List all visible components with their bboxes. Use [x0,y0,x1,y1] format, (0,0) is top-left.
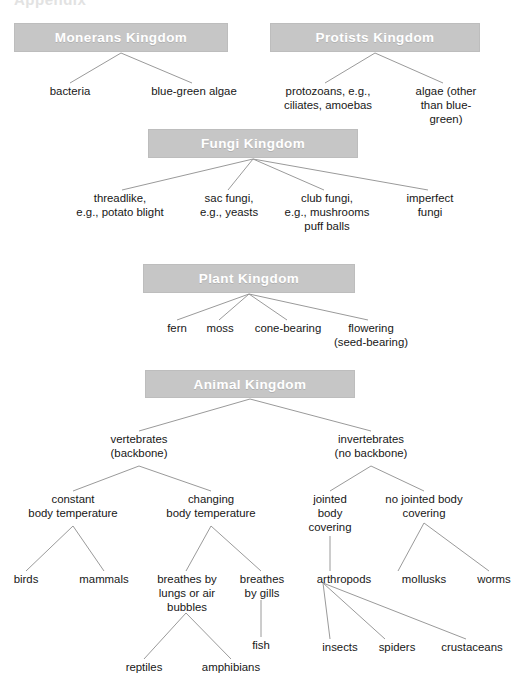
node-jointed-body-covering: jointed body covering [308,492,351,534]
node-worms: worms [477,572,511,586]
kingdom-bar-plant: Plant Kingdom [143,264,355,293]
node-fern: fern [167,321,187,335]
kingdom-bar-fungi: Fungi Kingdom [148,129,358,158]
classification-diagram: Appendix [0,0,529,687]
kingdom-bar-animal: Animal Kingdom [145,370,355,398]
kingdom-bar-monerans: Monerans Kingdom [14,23,228,52]
kingdom-bar-protists: Protists Kingdom [270,23,480,52]
node-mollusks: mollusks [402,572,446,586]
node-flowering: flowering (seed-bearing) [334,321,408,349]
node-other-algae: algae (other than blue-green) [405,84,488,126]
node-breathes-by-lungs: breathes by lungs or air bubbles [157,572,217,614]
node-club-fungi: club fungi, e.g., mushrooms puff balls [285,191,370,233]
node-spiders: spiders [379,640,416,654]
node-sac-fungi: sac fungi, e.g., yeasts [200,191,258,219]
node-changing-body-temperature: changing body temperature [166,492,255,520]
node-moss: moss [206,321,233,335]
cropped-page-heading: Appendix [14,0,86,8]
node-protozoans: protozoans, e.g., ciliates, amoebas [284,84,372,112]
node-cone-bearing: cone-bearing [255,321,322,335]
node-mammals: mammals [79,572,128,586]
node-vertebrates: vertebrates (backbone) [111,432,168,460]
node-invertebrates: invertebrates (no backbone) [335,432,408,460]
node-insects: insects [322,640,357,654]
node-reptiles: reptiles [126,660,163,674]
node-birds: birds [14,572,39,586]
node-no-jointed-body-covering: no jointed body covering [385,492,462,520]
node-amphibians: amphibians [202,660,260,674]
node-arthropods: arthropods [317,572,371,586]
node-imperfect-fungi: imperfect fungi [407,191,454,219]
node-crustaceans: crustaceans [441,640,502,654]
node-breathes-by-gills: breathes by gills [240,572,284,600]
node-threadlike: threadlike, e.g., potato blight [76,191,163,219]
node-constant-body-temperature: constant body temperature [28,492,117,520]
node-blue-green-algae: blue-green algae [151,84,237,98]
node-fish: fish [252,638,270,652]
node-bacteria: bacteria [50,84,91,98]
